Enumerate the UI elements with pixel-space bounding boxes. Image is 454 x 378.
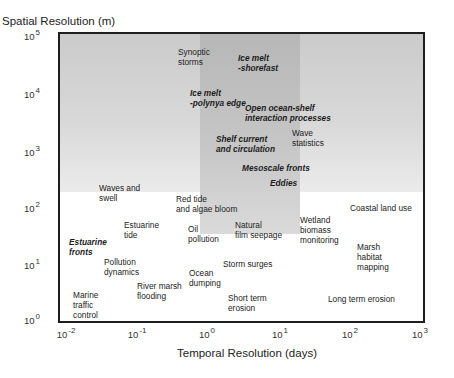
label-long-term-erosion: Long term erosion (328, 294, 395, 304)
label-eddies: Eddies (270, 178, 297, 188)
x-tick-1e-1: 10-1 (117, 327, 157, 340)
label-shelf-current: Shelf current and circulation (216, 134, 275, 154)
y-tick-1e2: 102 (2, 201, 40, 214)
label-ocean-dumping: Ocean dumping (189, 268, 221, 288)
label-wetland-biomass: Wetland biomass monitoring (300, 215, 339, 245)
label-red-tide: Red tide and algae bloom (176, 194, 237, 214)
y-axis-title: Spatial Resolution (m) (2, 15, 115, 27)
label-marine-traffic: Marine traffic control (73, 290, 98, 320)
label-open-ocean-shelf: Open ocean-shelf interaction processes (245, 103, 331, 123)
label-short-term-erosion: Short term erosion (228, 293, 267, 313)
label-ice-melt-shorefast: Ice melt -shorefast (238, 53, 278, 73)
label-estuarine-tide: Estuarine tide (124, 220, 159, 240)
label-coastal-land-use: Coastal land use (350, 203, 412, 213)
x-axis-title: Temporal Resolution (days) (0, 347, 454, 359)
label-mesoscale-fronts: Mesoscale fronts (242, 163, 310, 173)
y-tick-1e0: 100 (2, 313, 40, 326)
x-tick-1e1: 101 (260, 327, 300, 340)
label-marsh-habitat: Marsh habitat mapping (357, 242, 389, 272)
label-synoptic-storms: Synoptic storms (178, 47, 210, 67)
label-storm-surges: Storm surges (223, 259, 272, 269)
y-tick-1e1: 101 (2, 258, 40, 271)
label-river-marsh: River marsh flooding (137, 281, 182, 301)
label-natural-film-seepage: Natural film seepage (235, 220, 282, 240)
y-tick-1e5: 105 (2, 29, 40, 42)
plot-area: Synoptic storms Ice melt -shorefast Ice … (58, 32, 425, 323)
label-oil-pollution: Oil pollution (188, 224, 219, 244)
label-pollution-dynamics: Pollution dynamics (104, 257, 139, 277)
y-tick-1e4: 104 (2, 87, 40, 100)
y-tick-1e3: 103 (2, 145, 40, 158)
label-wave-statistics: Wave statistics (292, 128, 324, 148)
label-ice-melt-polynya: Ice melt -polynya edge (190, 88, 246, 108)
label-estuarine-fronts: Estuarine fronts (69, 237, 107, 257)
x-tick-1e0: 100 (187, 327, 227, 340)
x-tick-1e-2: 10-2 (46, 327, 86, 340)
label-waves-swell: Waves and swell (99, 183, 140, 203)
x-tick-1e3: 103 (400, 327, 440, 340)
x-tick-1e2: 102 (330, 327, 370, 340)
